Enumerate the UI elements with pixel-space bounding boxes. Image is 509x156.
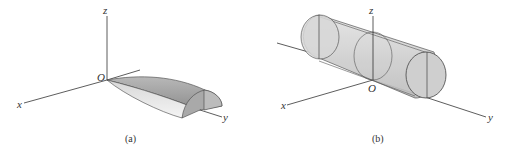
solid-end-cap-face xyxy=(204,90,222,110)
caption-a: (a) xyxy=(125,133,136,145)
x-label: x xyxy=(16,98,22,110)
diagram-canvas: z O x y (a) z O x y (b) xyxy=(0,0,509,156)
origin-label: O xyxy=(97,71,105,83)
x-label: x xyxy=(280,99,286,111)
back-end-disk xyxy=(301,15,339,59)
x-axis xyxy=(287,80,373,105)
y-axis-front xyxy=(200,110,222,117)
figure-b: z O x y (b) xyxy=(277,4,493,145)
z-label: z xyxy=(102,4,108,16)
caption-b: (b) xyxy=(372,133,384,145)
y-label: y xyxy=(222,111,228,123)
y-label: y xyxy=(487,111,493,123)
front-end-disk xyxy=(406,52,446,98)
figure-a: z O x y (a) xyxy=(16,4,228,145)
x-axis xyxy=(24,80,107,103)
z-label: z xyxy=(368,4,374,16)
origin-label: O xyxy=(368,82,376,94)
